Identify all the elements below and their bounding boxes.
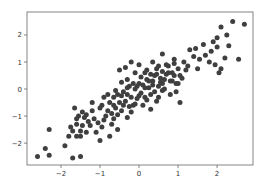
data-point [160,69,165,74]
data-point [129,60,134,65]
data-point [66,134,71,139]
data-point [62,143,67,148]
data-point [140,103,145,108]
y-axis: −2−1012 [12,31,27,147]
data-point [152,89,157,94]
data-point [172,73,177,78]
data-point [174,89,179,94]
data-point [135,84,140,89]
data-point [185,64,190,69]
data-point [242,22,247,27]
data-point [154,66,159,71]
data-point [137,93,142,98]
data-point [139,74,144,79]
data-point [119,80,124,85]
data-point [43,146,48,151]
data-point [166,70,171,75]
x-tick-label: −1 [95,170,105,178]
data-point [92,116,97,121]
data-point [160,88,165,93]
data-point [154,72,159,77]
data-point [176,66,181,71]
data-point [162,77,167,82]
data-point [219,24,224,29]
data-point [82,115,87,120]
data-point [215,45,220,50]
data-point [201,42,206,47]
data-point [80,123,85,128]
data-point [144,97,149,102]
data-point [101,118,106,123]
data-point [125,115,130,120]
data-point [105,108,110,113]
data-point [224,33,229,38]
data-point [105,92,110,97]
data-point [195,66,200,71]
data-point [137,62,142,67]
data-point [78,154,83,159]
data-point [99,103,104,108]
data-point [236,57,241,62]
data-point [176,81,181,86]
data-point [70,156,75,161]
data-point [142,85,147,90]
data-point [119,93,124,98]
data-point [213,62,218,67]
x-axis: −2−1012 [56,165,220,178]
x-tick-label: 2 [215,170,219,178]
data-point [111,116,116,121]
data-point [142,70,147,75]
data-point [84,130,89,135]
data-point [99,124,104,129]
data-point [180,76,185,81]
data-point [129,95,134,100]
data-point [215,35,220,40]
data-point [119,108,124,113]
data-point [90,108,95,113]
data-point [181,60,186,65]
data-point [133,70,138,75]
data-point [219,66,224,71]
data-point [127,104,132,109]
data-point [150,83,155,88]
data-point [226,43,231,48]
data-point [148,72,153,77]
data-point [193,46,198,51]
data-point [148,107,153,112]
y-tick-label: −2 [12,140,22,148]
plot-background [27,12,253,165]
data-point [150,60,155,65]
data-point [47,153,52,158]
data-point [129,110,134,115]
data-point [121,103,126,108]
data-point [197,57,202,62]
data-point [125,77,130,82]
data-point [209,49,214,54]
data-point [47,127,52,132]
y-tick-label: 2 [18,31,22,39]
data-point [156,95,161,100]
data-point [160,51,165,56]
data-point [78,128,83,133]
data-point [203,53,208,58]
y-tick-label: −1 [12,113,22,121]
x-tick-label: 0 [137,170,141,178]
data-point [78,134,83,139]
data-point [211,39,216,44]
data-point [113,88,118,93]
data-point [72,106,77,111]
data-point [170,78,175,83]
data-point [168,92,173,97]
data-point [222,56,227,61]
data-point [90,100,95,105]
data-point [94,130,99,135]
data-point [133,101,138,106]
data-point [96,120,101,125]
data-point [98,138,103,143]
data-point [115,112,120,117]
data-point [74,116,79,121]
data-point [123,65,128,70]
data-point [109,122,114,127]
data-point [74,122,79,127]
data-point [68,124,73,129]
